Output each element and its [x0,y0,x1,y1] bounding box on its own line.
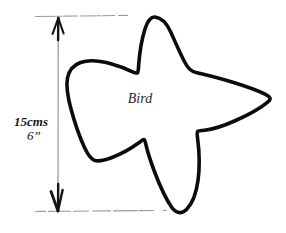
dimension-metric-label: 15cms [14,114,48,129]
dimension-imperial-label: 6” [27,128,41,143]
bird-template-figure: 15cms 6” Bird [0,0,286,233]
figure-root: 15cms 6” Bird [0,0,286,233]
shape-label-bird: Bird [128,91,153,106]
